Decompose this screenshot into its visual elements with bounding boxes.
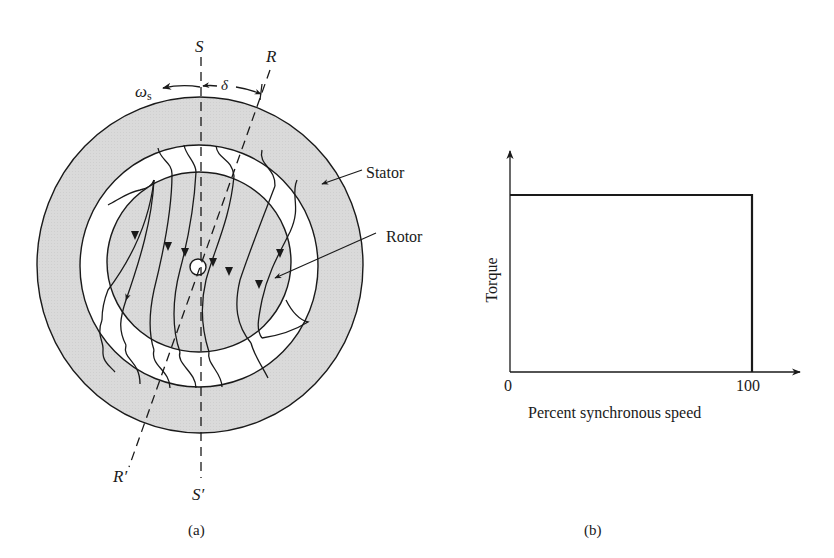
label-stator: Stator: [366, 164, 405, 181]
label-r: R: [265, 47, 277, 66]
caption-b: (b): [584, 522, 602, 539]
figure-canvas: S R R′ S′ ωs δ Stator Rotor (a) 0 100 Pe…: [0, 0, 834, 558]
label-delta: δ: [221, 77, 229, 93]
machine-cross-section: [37, 57, 376, 478]
torque-curve: [510, 195, 752, 372]
y-axis-label: Torque: [483, 257, 501, 302]
delta-arc-right: [236, 87, 261, 94]
caption-a: (a): [188, 522, 205, 539]
torque-speed-chart: [510, 151, 800, 372]
x-axis-label: Percent synchronous speed: [528, 404, 701, 422]
label-omega: ωs: [135, 82, 152, 103]
label-s-prime: S′: [192, 485, 205, 504]
x-tick-100: 100: [736, 377, 760, 394]
x-tick-0: 0: [504, 377, 512, 394]
delta-arc-left: [203, 86, 217, 87]
label-rotor: Rotor: [386, 228, 423, 245]
rotation-arrow: [163, 86, 200, 88]
label-r-prime: R′: [112, 467, 127, 486]
label-s: S: [195, 37, 204, 56]
